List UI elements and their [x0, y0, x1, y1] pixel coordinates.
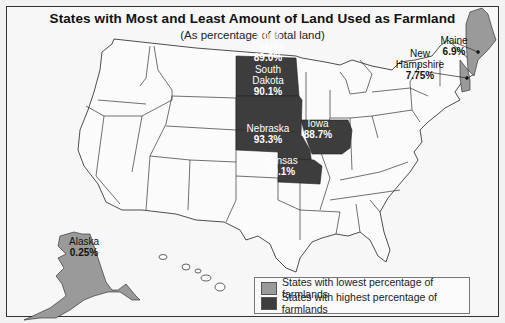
legend-item-highest: States with highest percentage of farmla… [261, 297, 469, 309]
label-kansas: Kansas 90.1% [256, 155, 306, 177]
label-nebraska: Nebraska 93.3% [240, 123, 296, 145]
legend-swatch-highest [261, 297, 277, 310]
legend: States with lowest percentage of farmlan… [254, 277, 470, 314]
label-south-dakota: South Dakota 90.1% [243, 64, 293, 97]
legend-label-highest: States with highest percentage of farmla… [282, 291, 469, 315]
label-alaska: Alaska 0.25% [66, 236, 102, 258]
legend-swatch-lowest [261, 282, 277, 295]
map-title: States with Most and Least Amount of Lan… [0, 11, 505, 26]
label-new-hampshire: New Hampshire 7.75% [392, 48, 448, 81]
label-iowa: Iowa 88.7% [296, 118, 340, 140]
label-north-dakota: North Dakota 89.0% [243, 30, 293, 63]
